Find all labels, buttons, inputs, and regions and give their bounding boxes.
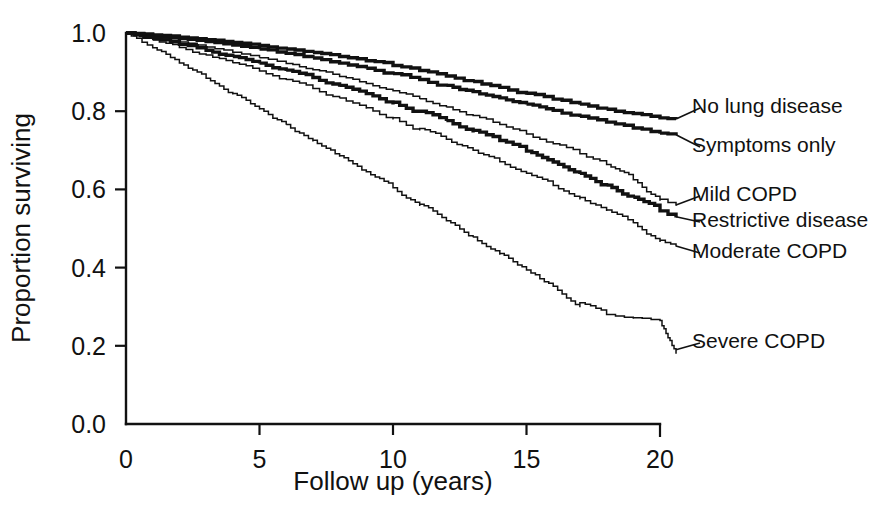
curve-severe-copd	[126, 33, 676, 354]
x-tick-label: 20	[646, 445, 674, 473]
y-axis-title: Proportion surviving	[6, 113, 36, 343]
y-axis-ticks	[115, 111, 126, 346]
legend-label-symptoms-only: Symptoms only	[692, 134, 836, 155]
y-tick-label: 0.2	[71, 332, 106, 360]
y-tick-label: 0.6	[71, 175, 106, 203]
x-axis-ticks	[260, 424, 661, 437]
curve-restrictive-disease	[126, 33, 676, 218]
survival-curves	[126, 33, 676, 354]
y-axis-tick-labels: 0.00.20.40.60.81.0	[71, 19, 106, 438]
y-tick-label: 1.0	[71, 19, 106, 47]
legend-label-moderate-copd: Moderate COPD	[692, 240, 847, 261]
y-tick-label: 0.4	[71, 254, 106, 282]
x-tick-label: 0	[119, 445, 133, 473]
legend-label-no-lung-disease: No lung disease	[692, 95, 843, 116]
x-axis-title: Follow up (years)	[293, 466, 492, 496]
legend-label-mild-copd: Mild COPD	[692, 183, 797, 204]
legend-label-restrictive-disease: Restrictive disease	[692, 209, 868, 230]
x-tick-label: 5	[253, 445, 267, 473]
curve-symptoms-only	[126, 33, 676, 135]
survival-curve-figure: 0.00.20.40.60.81.0 05101520 Follow up (y…	[0, 0, 871, 519]
y-tick-label: 0.8	[71, 97, 106, 125]
x-tick-label: 15	[513, 445, 541, 473]
y-tick-label: 0.0	[71, 410, 106, 438]
legend-label-severe-copd: Severe COPD	[692, 330, 825, 351]
